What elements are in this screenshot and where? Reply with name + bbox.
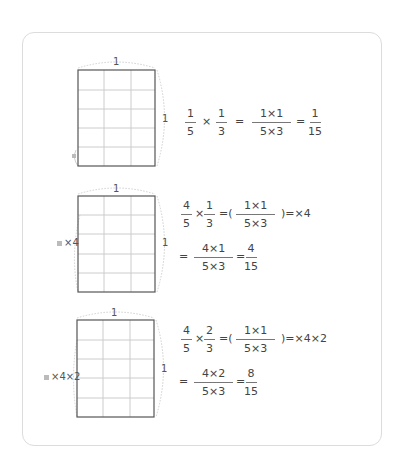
fraction: 1 3 bbox=[216, 108, 227, 137]
fraction: 2 3 bbox=[204, 325, 215, 354]
side-length-label: 1 bbox=[161, 364, 167, 374]
fraction: 4×2 5×3 bbox=[194, 368, 233, 397]
operator: × bbox=[202, 116, 211, 127]
operator: = bbox=[179, 251, 188, 262]
side-length-label: 1 bbox=[162, 114, 168, 124]
operator: × bbox=[195, 208, 204, 219]
side-length-label: 1 bbox=[162, 238, 168, 248]
fraction: 1×1 5×3 bbox=[252, 108, 291, 137]
grid-panel-3 bbox=[74, 312, 164, 417]
fraction: 8 15 bbox=[244, 368, 258, 397]
fraction: 4 5 bbox=[181, 325, 192, 354]
operator: = bbox=[296, 116, 305, 127]
fraction: 1×1 5×3 bbox=[236, 200, 275, 229]
operator: × bbox=[195, 333, 204, 344]
fraction: 4×1 5×3 bbox=[194, 243, 233, 272]
fraction: 4 15 bbox=[244, 243, 258, 272]
operator: )=×4×2 bbox=[281, 333, 327, 344]
top-length-label: 1 bbox=[113, 184, 119, 194]
grid-panel-1 bbox=[72, 62, 165, 166]
cell-marker-label: ×4×2 bbox=[44, 372, 80, 382]
cell-marker-label: ×4 bbox=[57, 238, 79, 248]
operator: =( bbox=[219, 333, 233, 344]
fraction: 1 5 bbox=[185, 108, 196, 137]
fraction: 1×1 5×3 bbox=[236, 325, 275, 354]
fraction: 1 3 bbox=[204, 200, 215, 229]
fraction: 1 15 bbox=[308, 108, 322, 137]
operator: )=×4 bbox=[281, 208, 311, 219]
top-length-label: 1 bbox=[111, 308, 117, 318]
grid-panel-2 bbox=[74, 188, 164, 292]
shaded-cell-icon bbox=[57, 241, 62, 246]
operator: = bbox=[235, 116, 244, 127]
operator: = bbox=[179, 376, 188, 387]
shaded-cell-icon bbox=[44, 375, 49, 380]
fraction: 4 5 bbox=[181, 200, 192, 229]
top-length-label: 1 bbox=[113, 57, 119, 67]
operator: =( bbox=[219, 208, 233, 219]
